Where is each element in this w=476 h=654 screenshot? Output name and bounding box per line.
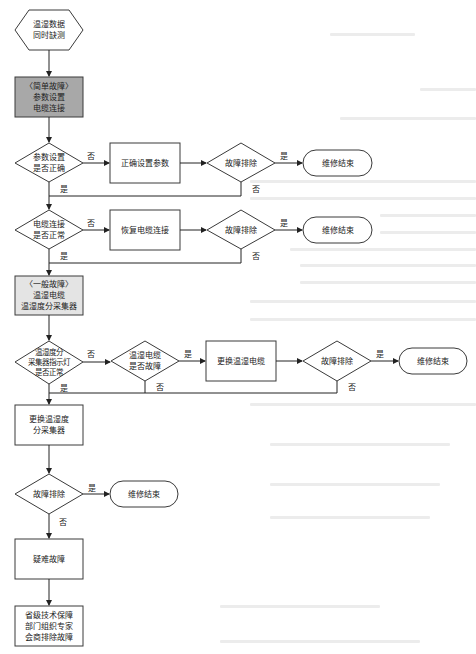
start-node-text: 温湿数据 同时缺测 [15,10,83,50]
text-line: 正确设置参数 [121,158,169,169]
end-4-text: 维修结束 [110,481,178,507]
edge-label-yes: 是 [280,152,288,161]
edge-label-no: 否 [252,185,260,194]
connectors [49,50,398,605]
text-line: 省级技术保障 [25,610,73,621]
text-line: 温湿电缆 [129,350,161,361]
text-line: 故障排除 [33,489,65,500]
text-line: 采集器指示灯 [28,358,70,368]
edge-label-no: 否 [87,152,95,161]
text-line: 部门组织专家 [25,621,73,632]
restore-cable-text: 恢复电缆连接 [110,210,180,250]
simple-fault-text: 〈简单故障〉 参数设置 电缆连接 [15,77,83,117]
text-line: 温湿度分 [35,348,63,358]
text-line: 故障排除 [225,158,257,169]
edge-label-yes: 是 [184,350,192,359]
text-line: 是否故障 [129,361,161,372]
fixed-1-text: 故障排除 [207,143,275,183]
text-line: 更换温湿电缆 [217,356,265,367]
fixed-3-text: 故障排除 [303,341,371,381]
text-line: 疑难故障 [33,554,65,565]
collector-check-text: 温湿度分 采集器指示灯 是否正常 [15,341,83,384]
text-line: 温湿电缆 [33,290,65,301]
cable-check-text: 电缆连接 是否正常 [15,210,83,250]
edge-label-no: 否 [87,350,95,359]
edge-label-no: 否 [252,252,260,261]
edge-label-yes: 是 [60,384,68,393]
end-2-text: 维修结束 [303,217,372,243]
text-line: 温湿数据 [33,19,65,30]
text-line: 是否正常 [33,230,65,241]
text-line: 恢复电缆连接 [121,225,169,236]
edge-label-no: 否 [87,219,95,228]
edge-label-yes: 是 [88,484,96,493]
end-1-text: 维修结束 [303,150,372,176]
text-line: 〈一般故障〉 [25,279,73,290]
edge-label-yes: 是 [60,252,68,261]
param-check-text: 参数设置 是否正确 [15,143,83,183]
text-line: 电缆连接 [33,219,65,230]
text-line: 故障排除 [225,225,257,236]
general-fault-text: 〈一般故障〉 温湿电缆 温湿度分采集器 [15,276,83,315]
edge-label-yes: 是 [60,185,68,194]
text-line: 电缆连接 [33,103,65,114]
text-line: 是否正常 [35,368,63,378]
text-line: 是否正确 [33,163,65,174]
edge-label-no: 否 [59,518,67,527]
text-line: 温湿度分采集器 [21,301,77,312]
text-line: 分采集器 [33,425,65,436]
set-params-text: 正确设置参数 [110,143,180,183]
edge-label-no: 否 [156,383,164,392]
text-line: 故障排除 [321,356,353,367]
text-line: 〈简单故障〉 [25,81,73,92]
replace-cable-text: 更换温湿电缆 [206,341,276,381]
fixed-2-text: 故障排除 [207,210,275,250]
text-line: 同时缺测 [33,30,65,41]
edge-label-yes: 是 [280,219,288,228]
text-line: 更换温湿度 [29,414,69,425]
replace-collector-text: 更换温湿度 分采集器 [15,405,83,445]
text-line: 维修结束 [322,225,354,236]
fixed-4-text: 故障排除 [15,474,83,514]
text-line: 会商排除故障 [25,632,73,643]
text-line: 维修结束 [417,356,449,367]
end-3-text: 维修结束 [399,348,467,374]
text-line: 参数设置 [33,152,65,163]
edge-label-yes: 是 [376,350,384,359]
text-line: 维修结束 [322,158,354,169]
edge-label-no: 否 [348,383,356,392]
text-line: 维修结束 [128,489,160,500]
expert-consult-text: 省级技术保障 部门组织专家 会商排除故障 [15,606,83,646]
text-line: 参数设置 [33,92,65,103]
difficult-fault-text: 疑难故障 [15,539,83,579]
cable-fault-check-text: 温湿电缆 是否故障 [111,341,179,381]
